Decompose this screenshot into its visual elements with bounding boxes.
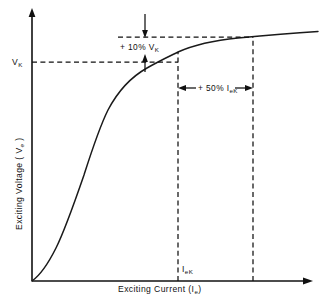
tick-labels-group: VK IeK [12, 57, 194, 275]
excitation-curve-figure: + 10% VK + 50% IeK VK IeK [0, 0, 325, 300]
x-axis-title: Exciting Current (Ie) [118, 284, 201, 295]
reference-lines-group [32, 37, 253, 281]
chart-canvas: + 10% VK + 50% IeK VK IeK [0, 0, 325, 300]
current-increase-annotation: + 50% IeK [178, 83, 253, 94]
curve-group [32, 31, 318, 281]
axes-group [29, 8, 313, 285]
voltage-increase-annotation: + 10% VK [120, 14, 160, 72]
y-axis-arrowhead [29, 8, 36, 17]
voltage-lower-arrowhead [142, 54, 148, 62]
current-increase-label: + 50% IeK [198, 83, 238, 94]
y-axis-title: Exciting Voltage ( Ve ) [14, 138, 25, 230]
knee-current-tick-label: IeK [182, 264, 194, 275]
excitation-curve [32, 31, 318, 281]
current-right-arrowhead [245, 85, 253, 91]
x-axis-arrowhead [303, 277, 313, 284]
voltage-increase-label: + 10% VK [120, 42, 160, 53]
knee-voltage-tick-label: VK [12, 57, 23, 68]
current-left-arrowhead [178, 85, 186, 91]
